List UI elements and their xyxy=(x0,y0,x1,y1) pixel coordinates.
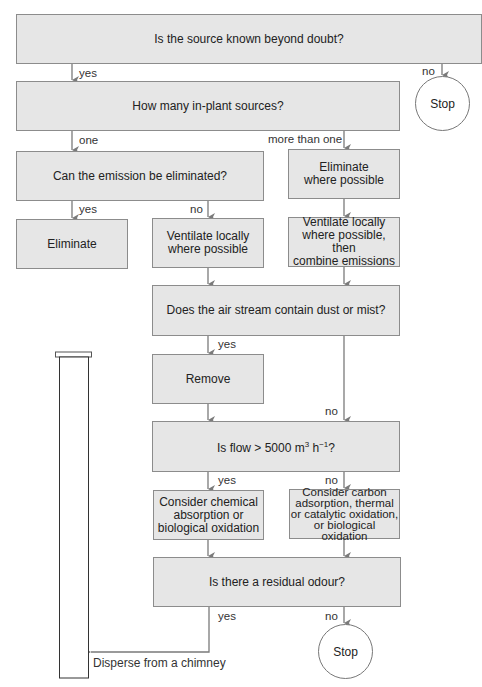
question-source-known: Is the source known beyond doubt? xyxy=(16,14,482,64)
label-disperse-chimney: Disperse from a chimney xyxy=(93,657,226,670)
edge-label-odour-no: no xyxy=(325,610,338,623)
edge-label-source-no: no xyxy=(422,65,435,78)
edge-label-eliminate-no: no xyxy=(190,203,203,216)
stop-terminal-bottom: Stop xyxy=(318,624,373,679)
action-ventilate-locally: Ventilate locally where possible xyxy=(152,218,264,268)
stop-terminal-top: Stop xyxy=(415,76,470,131)
edge-label-flow-yes: yes xyxy=(218,474,236,487)
question-how-many-sources: How many in-plant sources? xyxy=(16,81,400,131)
action-eliminate-where-possible-text: Eliminate where possible xyxy=(304,161,384,187)
action-chemical-absorption: Consider chemical absorption or biologic… xyxy=(153,490,264,540)
flow-text-suffix: ? xyxy=(328,441,335,455)
edge-label-dust-yes: yes xyxy=(218,338,236,351)
chimney-icon: (function(){ var g=document.currentScrip… xyxy=(54,350,94,680)
flow-text-prefix: Is flow > 5000 m xyxy=(217,441,305,455)
action-ventilate-locally-text: Ventilate locally where possible xyxy=(167,230,250,256)
edge-label-source-yes: yes xyxy=(79,67,97,80)
action-chemical-absorption-text: Consider chemical absorption or biologic… xyxy=(158,496,259,535)
action-remove: Remove xyxy=(152,354,264,404)
question-can-eliminate: Can the emission be eliminated? xyxy=(16,151,264,201)
question-residual-odour-text: Is there a residual odour? xyxy=(209,576,345,589)
action-eliminate-where-possible: Eliminate where possible xyxy=(288,149,400,199)
edge-label-one: one xyxy=(79,134,98,147)
stop-top-text: Stop xyxy=(430,97,455,111)
action-carbon-adsorption-text: Consider carbon adsorption, thermal or c… xyxy=(290,487,399,542)
action-ventilate-combine-text: Ventilate locally where possible, then c… xyxy=(289,216,399,268)
action-ventilate-combine: Ventilate locally where possible, then c… xyxy=(288,217,400,267)
action-eliminate: Eliminate xyxy=(16,219,128,269)
flow-text-mid: h xyxy=(309,441,319,455)
question-how-many-sources-text: How many in-plant sources? xyxy=(132,100,283,113)
question-residual-odour: Is there a residual odour? xyxy=(153,557,401,607)
question-can-eliminate-text: Can the emission be eliminated? xyxy=(53,170,227,183)
action-carbon-adsorption: Consider carbon adsorption, thermal or c… xyxy=(289,489,400,539)
question-flow-rate-text: Is flow > 5000 m3 h−1? xyxy=(217,438,335,455)
edge-label-dust-no: no xyxy=(325,405,338,418)
edge-label-eliminate-yes: yes xyxy=(79,203,97,216)
action-remove-text: Remove xyxy=(186,373,231,386)
question-source-known-text: Is the source known beyond doubt? xyxy=(154,33,343,46)
question-dust-or-mist-text: Does the air stream contain dust or mist… xyxy=(167,304,386,317)
question-dust-or-mist: Does the air stream contain dust or mist… xyxy=(152,285,400,336)
action-eliminate-text: Eliminate xyxy=(47,238,96,251)
edge-label-more-than-one: more than one xyxy=(268,133,342,146)
edge-label-flow-no: no xyxy=(325,474,338,487)
flow-unit-exponent-2: −1 xyxy=(319,440,328,449)
edge-label-odour-yes: yes xyxy=(218,610,236,623)
stop-bottom-text: Stop xyxy=(333,645,358,659)
question-flow-rate: Is flow > 5000 m3 h−1? xyxy=(152,421,400,472)
